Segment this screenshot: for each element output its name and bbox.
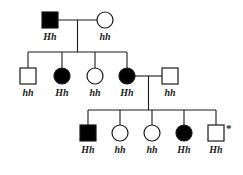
individual-ii-2-affected-female-circle bbox=[54, 68, 70, 84]
genotype-label-ii-2: Hh bbox=[45, 87, 79, 98]
individual-i-1-affected-male-square bbox=[42, 12, 58, 28]
genotype-label-iii-4: Hh bbox=[167, 144, 201, 155]
genotype-label-ii-4: Hh bbox=[110, 87, 144, 98]
genotype-label-iii-5: Hh bbox=[199, 144, 233, 155]
individual-iii-5-unaffected-male-square bbox=[208, 125, 224, 141]
genotype-label-iii-1: Hh bbox=[71, 144, 105, 155]
pedigree-chart: Hh hh hh Hh hh Hh hh Hh hh hh Hh Hh * bbox=[0, 0, 243, 175]
individual-ii-5-unaffected-male-square bbox=[162, 68, 178, 84]
genotype-label-iii-2: hh bbox=[103, 144, 137, 155]
individual-iii-2-unaffected-female-circle bbox=[112, 125, 128, 141]
individual-iii-4-affected-female-circle bbox=[176, 125, 192, 141]
genotype-label-i-1: Hh bbox=[33, 31, 67, 42]
genotype-label-iii-3: hh bbox=[135, 144, 169, 155]
individual-iii-1-affected-male-square bbox=[80, 125, 96, 141]
individual-ii-4-affected-female-circle bbox=[119, 68, 135, 84]
individual-i-2-unaffected-female-circle bbox=[97, 12, 113, 28]
individual-iii-3-unaffected-female-circle bbox=[144, 125, 160, 141]
individual-ii-1-unaffected-male-square bbox=[20, 68, 36, 84]
asterisk-marker-iii-5: * bbox=[226, 124, 232, 132]
genotype-label-i-2: hh bbox=[88, 31, 122, 42]
individual-ii-3-unaffected-female-circle bbox=[87, 68, 103, 84]
genotype-label-ii-1: hh bbox=[11, 87, 45, 98]
genotype-label-ii-3: hh bbox=[78, 87, 112, 98]
genotype-label-ii-5: hh bbox=[153, 87, 187, 98]
